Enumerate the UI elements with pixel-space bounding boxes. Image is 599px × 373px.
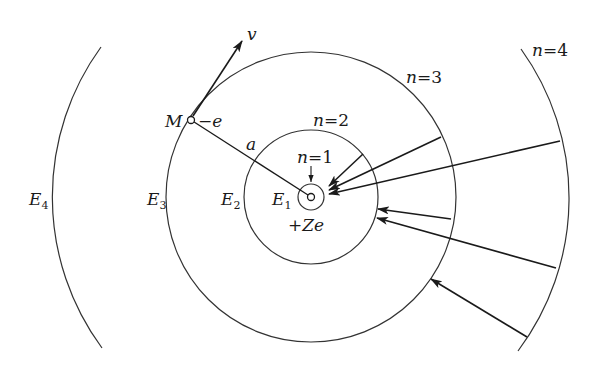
electron-label: M	[164, 111, 183, 131]
transition-4-to-2	[377, 218, 556, 268]
transition-4-to-3	[431, 279, 527, 337]
nucleus-icon	[308, 194, 315, 201]
energy-E4-label: E4	[28, 189, 48, 212]
velocity-label: v	[247, 24, 257, 44]
orbit-n1-label: n=1	[297, 147, 333, 167]
electron-icon	[188, 117, 195, 124]
orbit-n3-label: n=3	[406, 67, 442, 87]
energy-E3-label: E3	[146, 189, 166, 212]
radius-label: a	[246, 134, 256, 154]
nucleus-charge-label: +Ze	[288, 215, 324, 235]
transition-3-to-1	[329, 137, 441, 190]
velocity-arrow	[193, 41, 242, 116]
orbit-n4-label: n=4	[532, 40, 568, 60]
bohr-atom-diagram: v M −e a n=1 n=2 n=3 n=4 E1 E2 E3 E4 +Ze	[0, 0, 599, 373]
transition-4-to-1	[329, 141, 560, 194]
radius-line	[191, 120, 308, 195]
energy-E2-label: E2	[220, 189, 240, 212]
energy-E1-label: E1	[271, 189, 291, 212]
diagram-svg: v M −e a n=1 n=2 n=3 n=4 E1 E2 E3 E4 +Ze	[0, 0, 599, 373]
orbit-n2-label: n=2	[313, 110, 349, 130]
orbit-n4-right-arc	[518, 49, 569, 351]
orbit-n4-left-arc	[52, 47, 102, 348]
electron-charge-label: −e	[198, 111, 222, 131]
transition-3-to-2	[378, 209, 451, 219]
